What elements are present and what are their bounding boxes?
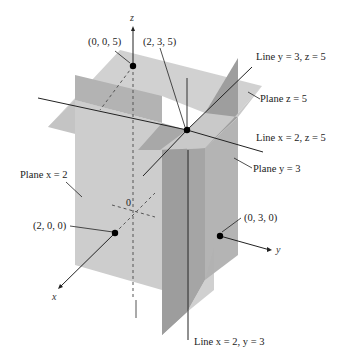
point-2-0-0 <box>112 230 118 236</box>
point-2-3-5 <box>184 127 190 133</box>
z-axis-label: z <box>130 13 134 23</box>
plane-y3-front <box>160 148 205 335</box>
line-label-x2y3: Line x = 2, y = 3 <box>194 337 264 348</box>
point-label-2-0-0: (2, 0, 0) <box>33 221 66 232</box>
point-0-0-5 <box>130 63 136 69</box>
plane-label-x2: Plane x = 2 <box>20 170 68 181</box>
z-axis-arrowhead <box>131 26 135 31</box>
x-axis-label: x <box>52 292 56 302</box>
plane-x2-lower <box>75 100 162 290</box>
y-axis-label: y <box>276 245 280 255</box>
point-label-2-3-5: (2, 3, 5) <box>143 37 176 48</box>
plane-label-z5: Plane z = 5 <box>260 94 307 105</box>
3d-planes-diagram: z x y 0 (0, 0, 5) (2, 3, 5) (2, 0, 0) (0… <box>0 0 348 361</box>
point-0-3-0 <box>217 233 223 239</box>
point-label-0-0-5: (0, 0, 5) <box>88 37 121 48</box>
point-label-0-3-0: (0, 3, 0) <box>244 213 277 224</box>
line-label-y3z5: Line y = 3, z = 5 <box>256 52 326 63</box>
origin-label: 0 <box>126 198 131 208</box>
plane-label-y3: Plane y = 3 <box>253 164 301 175</box>
line-label-x2z5: Line x = 2, z = 5 <box>256 133 326 144</box>
y-axis-arrowhead <box>267 247 272 252</box>
